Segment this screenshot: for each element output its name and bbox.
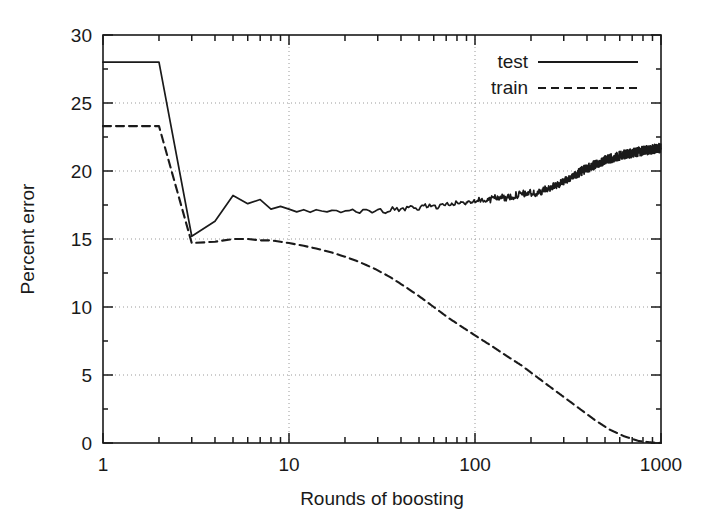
y-tick-label: 0 xyxy=(81,433,92,454)
legend-label-train: train xyxy=(491,77,528,98)
chart-figure: 051015202530 1101001000 Percent error Ro… xyxy=(0,0,710,525)
y-tick-label: 5 xyxy=(81,365,92,386)
x-tick-label: 1000 xyxy=(640,454,682,475)
y-tick-label: 20 xyxy=(71,161,92,182)
x-tick-label: 10 xyxy=(278,454,299,475)
y-tick-label: 25 xyxy=(71,93,92,114)
y-tick-label: 30 xyxy=(71,25,92,46)
y-tick-label: 15 xyxy=(71,229,92,250)
y-tick-label: 10 xyxy=(71,297,92,318)
x-tick-label: 1 xyxy=(98,454,109,475)
x-tick-label: 100 xyxy=(459,454,491,475)
y-axis-title: Percent error xyxy=(17,183,38,295)
chart-background xyxy=(0,0,710,525)
legend-label-test: test xyxy=(497,51,528,72)
boosting-error-chart: 051015202530 1101001000 Percent error Ro… xyxy=(0,0,710,525)
x-axis-title: Rounds of boosting xyxy=(300,488,464,509)
